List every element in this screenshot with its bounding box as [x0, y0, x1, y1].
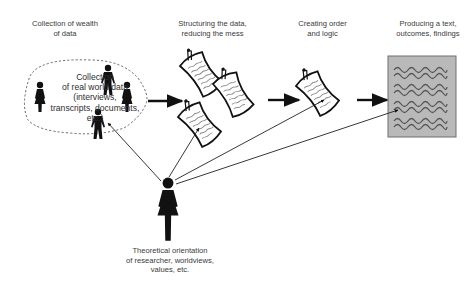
stage-label-producing: Producing a text, outcomes, findings — [380, 19, 476, 38]
researcher-label: Theoretical orientation of researcher, w… — [120, 246, 220, 275]
influence-line-to-data — [108, 123, 161, 181]
stage-label-structuring: Structuring the data, reducing the mess — [160, 19, 265, 38]
diagram-graphics — [0, 0, 476, 283]
cloud-description: Collection of real world data (interview… — [40, 72, 150, 123]
ordered-document-icon — [290, 61, 341, 119]
researcher-icon — [158, 178, 179, 241]
qualitative-research-process-diagram: Collection of wealth of data Structuring… — [0, 0, 476, 283]
document-stack-icon — [172, 42, 255, 151]
stage-label-ordering: Creating order and logic — [280, 19, 365, 38]
output-text-box — [388, 56, 456, 137]
stage-label-collection: Collection of wealth of data — [20, 19, 110, 38]
